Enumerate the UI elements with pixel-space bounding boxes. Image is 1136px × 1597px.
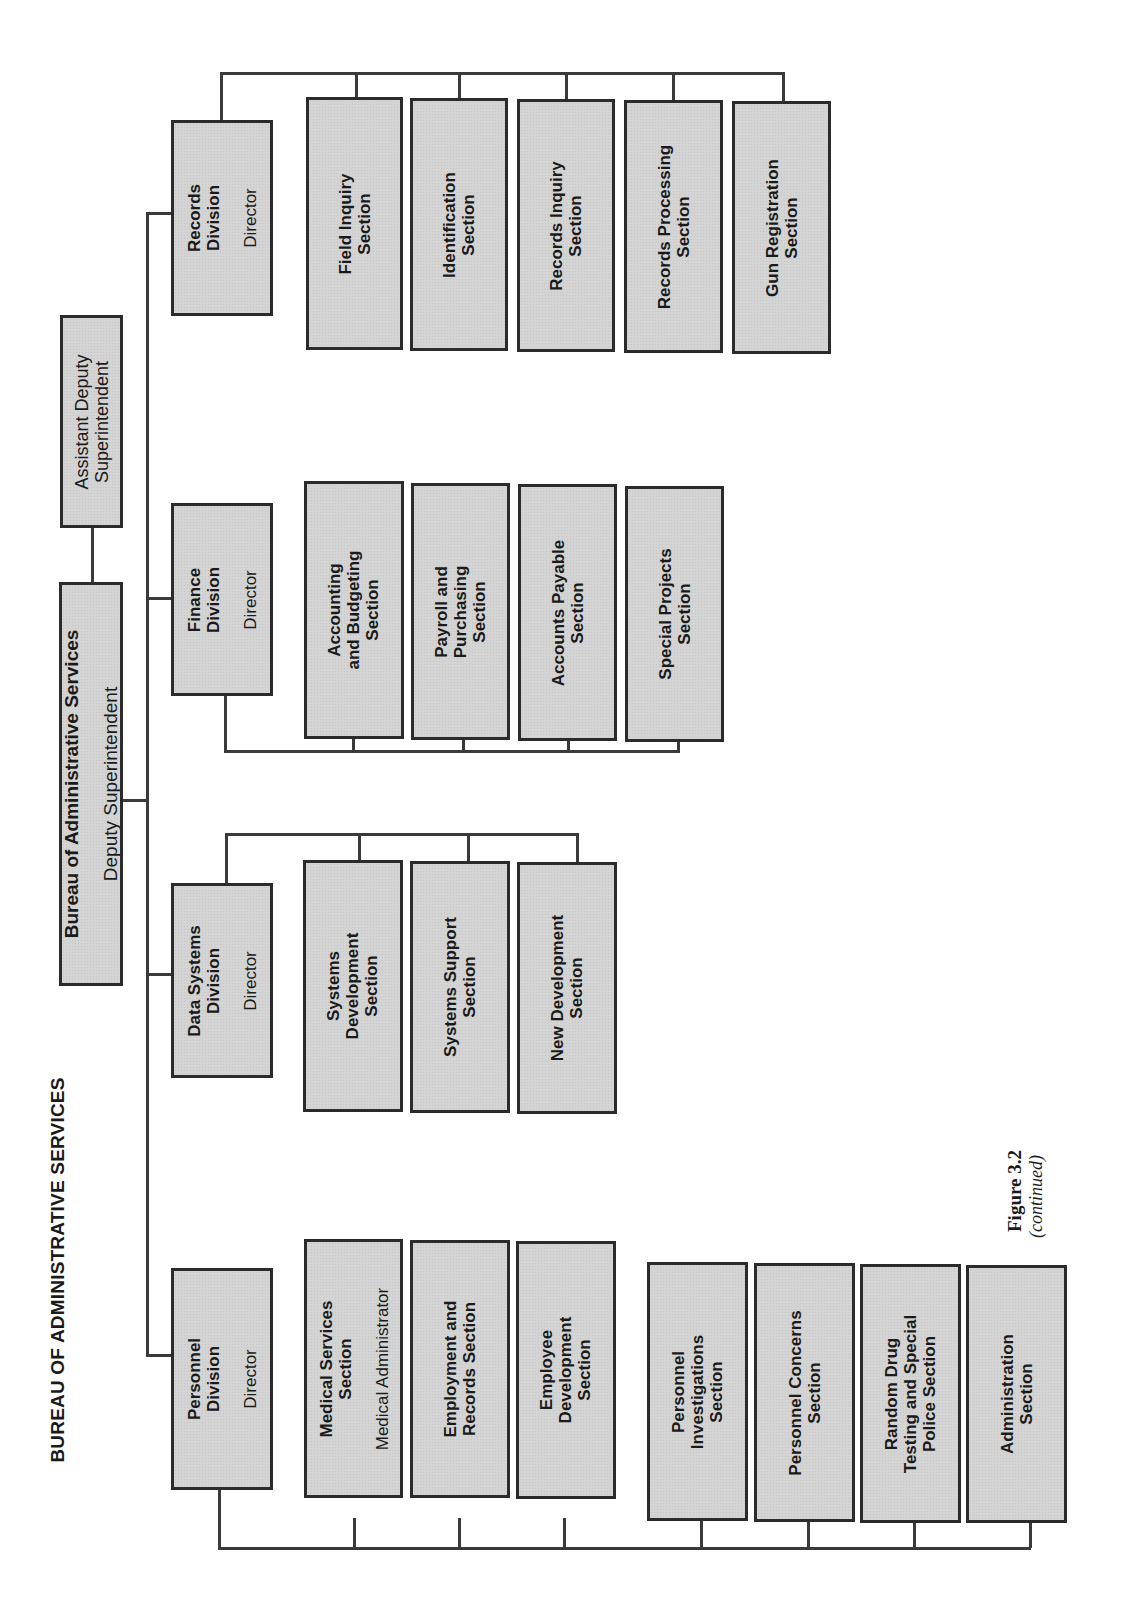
personnel-division-head: Director <box>240 1274 259 1484</box>
finance-drop <box>567 740 570 751</box>
trunk-to-data-systems <box>146 973 172 976</box>
trunk-to-finance <box>146 597 172 600</box>
personnel-drop <box>353 1518 356 1548</box>
section-label: Records Processing Section <box>654 104 692 349</box>
section-label: Gun Registration Section <box>762 105 800 350</box>
assistant-deputy-box: Assistant Deputy Superintendent <box>60 315 123 528</box>
section-employee-development: Employee Development Section <box>516 1241 616 1499</box>
data-systems-drop <box>576 833 579 863</box>
finance-stem <box>224 695 227 751</box>
section-label: Personnel Investigations Section <box>669 1267 726 1517</box>
bureau-name: Bureau of Administrative Services <box>61 589 82 979</box>
section-label: Accounting and Budgeting Section <box>325 485 382 735</box>
section-personnel-investigations: Personnel Investigations Section <box>647 1262 748 1521</box>
section-label: Employee Development Section <box>537 1245 594 1495</box>
section-administration: Administration Section <box>966 1265 1067 1523</box>
section-special-projects: Special Projects Section <box>625 486 724 742</box>
section-label: Administration Section <box>997 1269 1035 1519</box>
data-systems-stem <box>225 833 228 884</box>
section-label: Field Inquiry Section <box>335 101 373 346</box>
section-records-processing: Records Processing Section <box>624 100 723 353</box>
finance-division-box: Finance Division Director <box>171 503 273 696</box>
finance-division-name: Finance Division <box>185 507 223 692</box>
records-division-box: Records Division Director <box>171 120 273 316</box>
data-systems-drop <box>467 833 470 862</box>
section-label: Special Projects Section <box>655 489 693 739</box>
main-trunk-line <box>146 212 149 1357</box>
section-label: Personnel Concerns Section <box>785 1268 823 1518</box>
personnel-drop <box>1029 1521 1032 1548</box>
personnel-drop <box>458 1518 461 1548</box>
records-drop <box>565 72 568 99</box>
finance-drop <box>352 738 355 751</box>
section-medical-services: Medical Services Section Medical Adminis… <box>304 1239 403 1498</box>
records-stem <box>220 72 223 121</box>
records-drop <box>672 72 675 100</box>
records-bus <box>220 72 785 75</box>
personnel-drop <box>807 1521 810 1548</box>
bureau-head: Deputy Superintendent <box>100 589 121 979</box>
bureau-box: Bureau of Administrative Services Deputy… <box>59 582 123 986</box>
section-employment-records: Employment and Records Section <box>410 1240 510 1498</box>
trunk-to-records <box>146 212 172 215</box>
section-label: Systems Support Section <box>441 865 479 1110</box>
section-identification: Identification Section <box>410 98 508 351</box>
section-personnel-concerns: Personnel Concerns Section <box>754 1263 855 1522</box>
data-systems-drop <box>358 833 361 861</box>
finance-bus <box>224 750 680 753</box>
records-drop <box>782 72 785 101</box>
assistant-deputy-title: Assistant Deputy Superintendent <box>71 322 111 522</box>
section-accounting-budgeting: Accounting and Budgeting Section <box>304 481 404 739</box>
finance-division-head: Director <box>240 507 259 692</box>
section-head: Medical Administrator <box>372 1244 391 1494</box>
section-label: Medical Services Section <box>316 1244 354 1494</box>
personnel-stem <box>218 1490 221 1550</box>
section-records-inquiry: Records Inquiry Section <box>517 99 615 352</box>
records-division-name: Records Division <box>185 123 223 313</box>
section-random-drug-testing: Random Drug Testing and Special Police S… <box>860 1264 961 1523</box>
personnel-division-box: Personnel Division Director <box>171 1268 273 1490</box>
finance-drop <box>677 741 680 751</box>
section-label: Identification Section <box>440 102 478 347</box>
personnel-bus <box>218 1547 1031 1550</box>
section-label: Random Drug Testing and Special Police S… <box>882 1269 939 1519</box>
records-division-head: Director <box>240 123 259 313</box>
section-field-inquiry: Field Inquiry Section <box>306 97 403 350</box>
personnel-drop <box>913 1521 916 1548</box>
data-systems-division-name: Data Systems Division <box>185 886 223 1076</box>
records-drop <box>355 72 358 98</box>
records-drop <box>458 72 461 98</box>
data-systems-division-box: Data Systems Division Director <box>171 883 273 1078</box>
data-systems-bus <box>225 833 579 836</box>
section-label: Records Inquiry Section <box>547 103 585 348</box>
data-systems-division-head: Director <box>240 886 259 1076</box>
section-gun-registration: Gun Registration Section <box>732 101 831 354</box>
section-payroll-purchasing: Payroll and Purchasing Section <box>411 483 510 740</box>
section-label: Systems Development Section <box>324 864 381 1109</box>
section-systems-support: Systems Support Section <box>410 861 510 1113</box>
section-new-development: New Development Section <box>517 862 617 1114</box>
bureau-to-trunk-connector <box>121 799 148 802</box>
chart-title: BUREAU OF ADMINISTRATIVE SERVICES <box>47 1077 69 1462</box>
section-label: Employment and Records Section <box>441 1244 479 1494</box>
section-label: Payroll and Purchasing Section <box>432 487 489 737</box>
section-systems-development: Systems Development Section <box>303 860 403 1112</box>
figure-note: (continued) <box>1026 1155 1047 1238</box>
figure-label: Figure 3.2 <box>1004 1150 1026 1232</box>
section-label: Accounts Payable Section <box>548 488 586 738</box>
section-accounts-payable: Accounts Payable Section <box>518 484 617 741</box>
personnel-division-name: Personnel Division <box>185 1274 223 1484</box>
finance-drop <box>462 739 465 751</box>
trunk-to-personnel <box>146 1354 172 1357</box>
personnel-drop <box>563 1518 566 1548</box>
personnel-drop <box>700 1521 703 1548</box>
section-label: New Development Section <box>548 866 586 1111</box>
assistant-connector <box>91 526 94 583</box>
